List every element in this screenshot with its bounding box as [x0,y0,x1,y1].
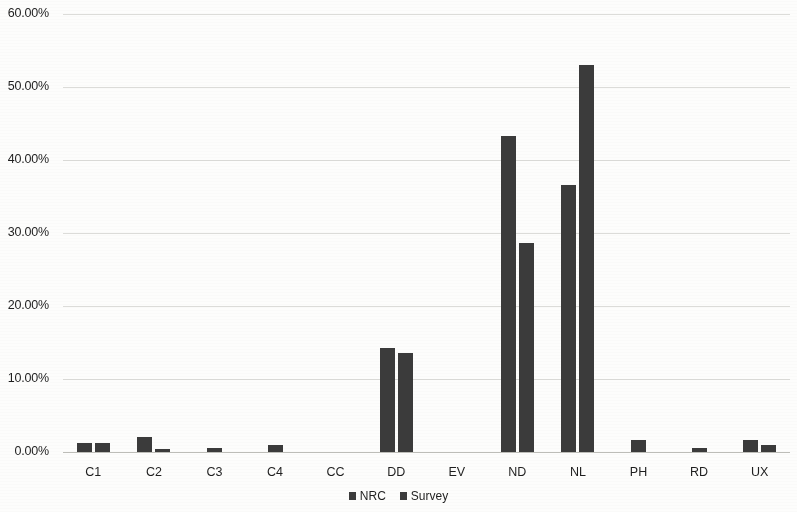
x-axis-label-ux: UX [729,455,790,483]
x-axis-label-ev: EV [426,455,487,483]
x-axis-label-c2: C2 [124,455,185,483]
y-axis-tick-label: 30.00% [0,225,49,239]
bar-c1-nrc [77,443,92,452]
legend-swatch-survey [400,492,407,500]
y-axis-tick-label: 20.00% [0,298,49,312]
legend-item-nrc: NRC [349,489,386,503]
bar-group-ph [608,14,669,452]
x-axis-label-nl: NL [548,455,609,483]
x-axis-labels: C1C2C3C4CCDDEVNDNLPHRDUX [63,455,790,483]
bar-c4-survey [268,445,283,452]
x-axis-label-c4: C4 [245,455,306,483]
bar-ph-nrc [631,440,646,452]
bar-c1-survey [95,443,110,452]
plot-area: 0.00%10.00%20.00%30.00%40.00%50.00%60.00… [63,14,790,452]
bar-c2-nrc [137,437,152,452]
bar-c2-survey [155,449,170,452]
bar-group-c3 [184,14,245,452]
bar-group-dd [366,14,427,452]
legend-swatch-nrc [349,492,356,500]
y-axis-tick-label: 40.00% [0,152,49,166]
bar-nl-survey [579,65,594,452]
bar-nl-nrc [561,185,576,452]
bar-dd-nrc [380,348,395,452]
y-axis-tick-label: 10.00% [0,371,49,385]
y-axis-tick-label: 50.00% [0,79,49,93]
legend-label-survey: Survey [411,489,448,503]
x-axis-label-ph: PH [608,455,669,483]
legend-item-survey: Survey [400,489,448,503]
bar-group-c1 [63,14,124,452]
x-axis-label-nd: ND [487,455,548,483]
bar-c3-nrc [207,448,222,452]
legend-label-nrc: NRC [360,489,386,503]
bar-ux-survey [761,445,776,452]
bar-ux-nrc [743,440,758,452]
bar-group-c2 [124,14,185,452]
bar-rd-nrc [692,448,707,452]
bar-group-ux [729,14,790,452]
chart-legend: NRC Survey [0,489,797,503]
x-axis-label-cc: CC [305,455,366,483]
gridline-0.00% [63,452,790,453]
bar-group-cc [305,14,366,452]
bar-chart: 0.00%10.00%20.00%30.00%40.00%50.00%60.00… [0,0,797,512]
x-axis-label-c1: C1 [63,455,124,483]
bar-group-c4 [245,14,306,452]
bar-dd-survey [398,353,413,452]
bar-group-ev [426,14,487,452]
bar-group-nd [487,14,548,452]
bar-nd-survey [519,243,534,452]
y-axis-tick-label: 0.00% [0,444,49,458]
x-axis-label-rd: RD [669,455,730,483]
bar-nd-nrc [501,136,516,452]
x-axis-label-dd: DD [366,455,427,483]
x-axis-label-c3: C3 [184,455,245,483]
bar-group-rd [669,14,730,452]
bar-group-nl [548,14,609,452]
y-axis-tick-label: 60.00% [0,6,49,20]
bar-groups [63,14,790,452]
